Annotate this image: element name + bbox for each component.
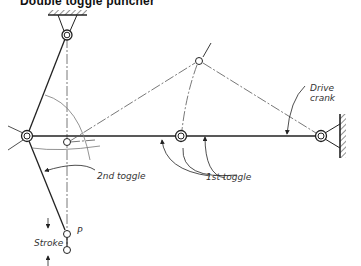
top-fixed-support	[48, 10, 87, 31]
left-pivot	[22, 131, 33, 142]
toggle-joint-alternate	[64, 139, 71, 146]
upper-toggle-link	[29, 39, 65, 131]
crank-pin-alternate	[196, 58, 203, 65]
second-toggle-label: 2nd toggle	[97, 171, 146, 181]
middle-pivot	[176, 131, 187, 142]
stroke-label: Stroke	[34, 238, 63, 248]
right-fixed-support	[325, 114, 346, 158]
alternate-position-lines	[70, 63, 316, 142]
lower-toggle-link	[29, 141, 65, 230]
first-toggle-label: 1st toggle	[206, 172, 251, 182]
right-fixed-pivot	[316, 131, 327, 142]
punch-point-label: P	[77, 226, 82, 236]
motion-arcs	[32, 95, 100, 160]
top-fixed-pivot	[62, 30, 72, 40]
drive-crank-label: Drive crank	[310, 83, 335, 103]
punch-point-p	[64, 231, 71, 238]
punch-bottom	[64, 247, 71, 254]
drive-crank-label-line1: Drive	[310, 83, 335, 93]
drive-crank-label-line2: crank	[310, 93, 335, 103]
double-toggle-mechanism-diagram	[0, 0, 361, 266]
